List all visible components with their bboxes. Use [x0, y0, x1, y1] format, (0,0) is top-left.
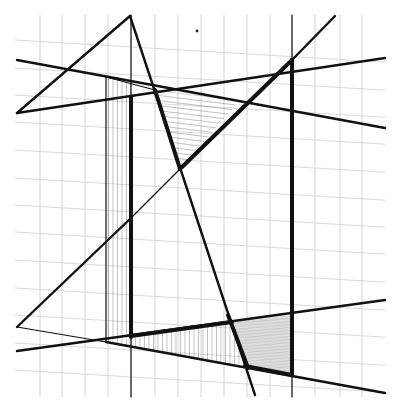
- grid-line-horizontal: [15, 150, 385, 172]
- ink-dot: [196, 30, 199, 33]
- left-hatched-rectangle: [106, 77, 131, 342]
- grid-line-horizontal: [15, 370, 385, 392]
- grid-line-horizontal: [15, 205, 385, 227]
- grid-line-horizontal: [15, 260, 385, 282]
- grid-line-horizontal: [15, 178, 385, 200]
- rising-diagonal-ext: [292, 16, 335, 60]
- grid-line-horizontal: [15, 232, 385, 254]
- grid-line-horizontal: [15, 40, 385, 62]
- lower-falling-line: [17, 327, 106, 342]
- lower-left-diagonal-thin: [131, 169, 180, 218]
- grid-line-horizontal: [15, 68, 385, 90]
- drawing-canvas: [0, 0, 400, 411]
